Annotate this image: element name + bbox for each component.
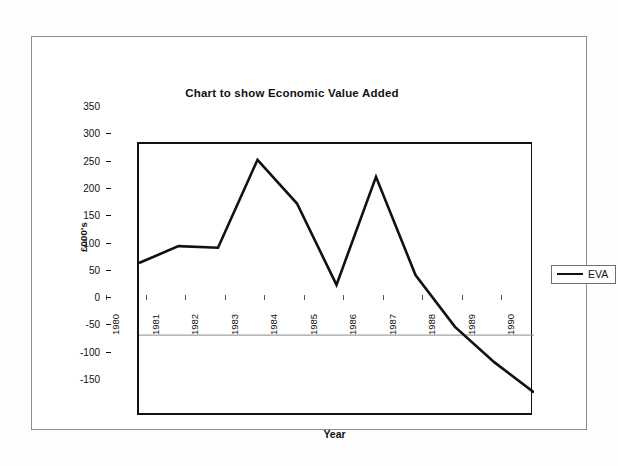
y-axis-tick-mark: [106, 215, 111, 216]
y-axis-tick-mark: [106, 297, 111, 298]
y-axis-tick-mark: [106, 161, 111, 162]
y-axis-tick-label: 0: [60, 292, 100, 303]
y-axis-tick-label: 250: [60, 155, 100, 166]
chart-title: Chart to show Economic Value Added: [32, 87, 552, 99]
legend-item-label: EVA: [588, 269, 608, 280]
y-axis-tick-label: 50: [60, 264, 100, 275]
x-axis-title: Year: [137, 428, 532, 440]
figure-frame: Chart to show Economic Value Added £000'…: [31, 36, 587, 430]
y-axis-tick-label: 150: [60, 210, 100, 221]
y-axis-tick-mark: [106, 188, 111, 189]
y-axis-tick-mark: [106, 133, 111, 134]
y-axis-tick-label: -50: [60, 319, 100, 330]
plot-svg: [139, 144, 534, 417]
y-axis-tick-mark: [106, 270, 111, 271]
plot-area: [137, 142, 532, 415]
y-axis-tick-label: 100: [60, 237, 100, 248]
y-axis-tick-label: 350: [60, 101, 100, 112]
y-axis-tick-label: -100: [60, 346, 100, 357]
y-axis-tick-label: 300: [60, 128, 100, 139]
chart-page: Chart to show Economic Value Added £000'…: [0, 0, 618, 466]
y-axis-tick-label: -150: [60, 374, 100, 385]
data-series-eva: [139, 160, 534, 393]
y-axis-tick-mark: [106, 324, 111, 325]
y-axis-tick-mark: [106, 352, 111, 353]
y-axis-tick-label: 200: [60, 182, 100, 193]
chart-legend: EVA: [551, 265, 616, 284]
line-swatch: [557, 273, 583, 275]
y-axis-tick-labels: 350300250200150100500-50-100-150: [56, 106, 100, 379]
y-axis-tick-mark: [106, 243, 111, 244]
x-axis-tick-label: 1980: [110, 314, 121, 335]
